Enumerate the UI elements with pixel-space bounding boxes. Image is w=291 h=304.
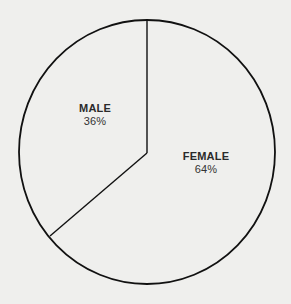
slice-label-female: FEMALE 64%	[176, 150, 236, 176]
male-percent: 36%	[72, 115, 118, 128]
female-percent: 64%	[176, 163, 236, 176]
female-name: FEMALE	[183, 150, 229, 162]
pie-chart-svg	[0, 0, 291, 304]
pie-chart: MALE 36% FEMALE 64%	[0, 0, 291, 304]
male-name: MALE	[79, 102, 111, 114]
slice-label-male: MALE 36%	[72, 102, 118, 128]
slice-divider-lower-left	[50, 153, 147, 236]
